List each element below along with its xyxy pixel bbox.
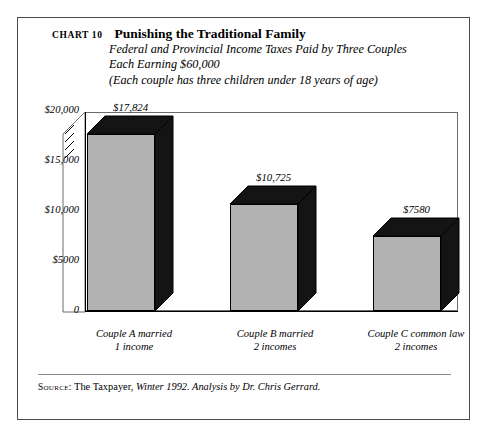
category-line-2: 2 incomes bbox=[348, 340, 484, 353]
category-line-1: Couple A married bbox=[69, 327, 199, 340]
source-note: Source: The Taxpayer, Winter 1992. Analy… bbox=[38, 381, 320, 392]
bar-series: $17,824 $10,725 $7580 bbox=[85, 112, 458, 311]
bar-couple-c[interactable]: $7580 bbox=[373, 236, 441, 311]
category-label-couple-a: Couple A married 1 income bbox=[69, 327, 199, 353]
x-axis-line bbox=[85, 311, 458, 312]
y-tick-label: 0 bbox=[74, 304, 79, 315]
bar-couple-a[interactable]: $17,824 bbox=[87, 134, 155, 311]
category-line-2: 1 income bbox=[69, 340, 199, 353]
category-line-2: 2 incomes bbox=[210, 340, 340, 353]
y-tick-label: $20,000 bbox=[45, 104, 79, 115]
x-axis-category-labels: Couple A married 1 income Couple B marri… bbox=[85, 327, 458, 367]
source-detail: Winter 1992. Analysis by Dr. Chris Gerra… bbox=[136, 381, 320, 392]
bar-front-face bbox=[230, 204, 298, 311]
bar-value-label: $7580 bbox=[403, 203, 430, 215]
source-prefix: Source: bbox=[38, 382, 72, 392]
source-divider bbox=[38, 374, 451, 375]
chart-number-label: CHART 10 bbox=[52, 30, 102, 40]
y-tick-label: $15,000 bbox=[45, 154, 79, 165]
chart-title: Punishing the Traditional Family bbox=[114, 26, 305, 42]
bar-value-label: $17,824 bbox=[113, 101, 148, 113]
category-line-1: Couple C common law bbox=[348, 327, 484, 340]
bar-value-label: $10,725 bbox=[256, 171, 291, 183]
chart-subtitle-line-3: (Each couple has three children under 18… bbox=[109, 73, 442, 88]
category-label-couple-c: Couple C common law 2 incomes bbox=[348, 327, 484, 353]
chart-subtitle-line-2: Each Earning $60,000 bbox=[109, 57, 442, 72]
y-axis-tick-labels: $20,000 $15,000 $10,000 $5000 0 bbox=[0, 112, 79, 311]
y-tick-label: $10,000 bbox=[45, 204, 79, 215]
category-label-couple-b: Couple B married 2 incomes bbox=[210, 327, 340, 353]
title-block: CHART 10 Punishing the Traditional Famil… bbox=[52, 26, 442, 88]
category-line-1: Couple B married bbox=[210, 327, 340, 340]
title-row: CHART 10 Punishing the Traditional Famil… bbox=[52, 26, 442, 42]
bar-couple-b[interactable]: $10,725 bbox=[230, 204, 298, 311]
y-tick-label: $5000 bbox=[53, 254, 79, 265]
chart-subtitle-line-1: Federal and Provincial Income Taxes Paid… bbox=[109, 42, 442, 57]
chart-figure: CHART 10 Punishing the Traditional Famil… bbox=[0, 0, 491, 442]
bar-front-face bbox=[87, 134, 155, 311]
bar-front-face bbox=[373, 236, 441, 311]
source-publication: The Taxpayer, bbox=[74, 381, 133, 392]
